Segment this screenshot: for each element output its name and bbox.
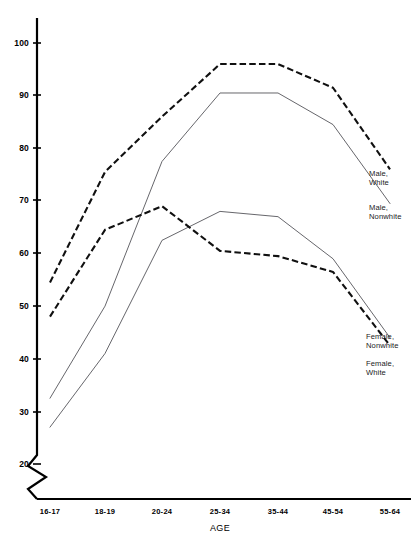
series-label-male-nonwhite-line1: Male,	[369, 203, 388, 212]
y-tick-label-90: 90	[19, 90, 29, 100]
y-tick-label-70: 70	[19, 195, 29, 205]
x-tick-label-45-54: 45-54	[323, 507, 344, 516]
series-label-female-nonwhite-line2: Nonwhite	[366, 341, 398, 350]
series-label-female-white-line1: Female,	[366, 359, 394, 368]
y-tick-label-60: 60	[19, 248, 29, 258]
series-label-male-white-line2: White	[369, 178, 389, 187]
series-label-female-nonwhite-line1: Female,	[366, 332, 394, 341]
y-tick-labels: 100 90 80 70 60 50 40 30 20	[14, 38, 29, 469]
chart-container: 100 90 80 70 60 50 40 30 20 16-17 18-19 …	[0, 0, 413, 539]
y-tick-label-50: 50	[19, 301, 29, 311]
x-tick-label-18-19: 18-19	[95, 507, 116, 516]
y-tick-label-20: 20	[19, 459, 29, 469]
x-tick-label-25-34: 25-34	[210, 507, 231, 516]
series-label-male-white: Male, White	[369, 169, 389, 187]
series-line-male-nonwhite	[50, 93, 390, 398]
series-label-male-white-line1: Male,	[369, 169, 388, 178]
y-tick-label-40: 40	[19, 354, 29, 364]
series-label-female-white: Female, White	[366, 359, 394, 377]
y-axis	[28, 18, 46, 499]
y-tick-label-100: 100	[14, 38, 29, 48]
series-line-female-white	[50, 206, 390, 345]
x-axis-title: AGE	[210, 523, 230, 533]
x-tick-label-20-24: 20-24	[152, 507, 173, 516]
series-label-male-nonwhite-line2: Nonwhite	[369, 212, 401, 221]
series-line-female-nonwhite	[50, 211, 390, 427]
x-tick-label-55-64: 55-64	[380, 507, 401, 516]
x-tick-labels: 16-17 18-19 20-24 25-34 35-44 45-54 55-6…	[40, 507, 401, 516]
series-label-male-nonwhite: Male, Nonwhite	[369, 203, 401, 221]
y-axis-line	[28, 18, 46, 499]
x-tick-label-16-17: 16-17	[40, 507, 61, 516]
line-chart: 100 90 80 70 60 50 40 30 20 16-17 18-19 …	[0, 0, 413, 539]
y-tick-label-80: 80	[19, 143, 29, 153]
series-label-female-white-line2: White	[366, 368, 386, 377]
series-label-female-nonwhite: Female, Nonwhite	[366, 332, 398, 350]
y-tick-label-30: 30	[19, 407, 29, 417]
x-tick-label-35-44: 35-44	[268, 507, 289, 516]
